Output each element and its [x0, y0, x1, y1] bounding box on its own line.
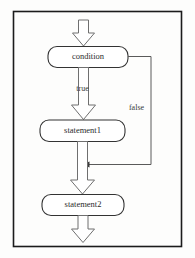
edge-label-false: false: [129, 103, 145, 112]
node-statement1-label: statement1: [64, 125, 101, 135]
node-statement2-label: statement2: [65, 199, 102, 209]
true-branch-arrow-icon: [72, 68, 96, 120]
flowchart-canvas: condition true false statement1 statemen…: [0, 0, 195, 258]
exit-arrow-icon: [72, 216, 95, 243]
flowchart-figure: condition true false statement1 statemen…: [0, 0, 195, 258]
entry-arrow-icon: [73, 20, 95, 46]
edge-label-true: true: [76, 84, 89, 93]
node-condition-label: condition: [72, 51, 105, 61]
statement1-to-statement2-arrow-icon: [71, 142, 95, 195]
